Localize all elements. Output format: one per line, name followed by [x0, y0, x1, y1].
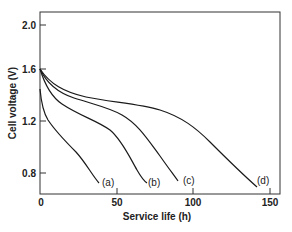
curve-label-d: (d)	[257, 175, 269, 186]
curve-c	[40, 69, 178, 181]
discharge-chart: 2.0 1.6 1.2 0.8 Cell voltage (V) 0 50 10…	[0, 0, 292, 232]
y-axis-title: Cell voltage (V)	[7, 67, 18, 139]
curve-label-a: (a)	[102, 177, 114, 188]
plot-area	[40, 12, 280, 194]
x-tick-label: 150	[262, 197, 279, 208]
y-tick-label: 2.0	[22, 20, 36, 31]
x-tick-label: 0	[38, 197, 44, 208]
curve-b	[40, 69, 147, 183]
x-axis-title: Service life (h)	[123, 211, 191, 222]
x-tick-label: 100	[185, 197, 202, 208]
x-axis: 0 50 100 150 Service life (h)	[38, 188, 279, 222]
x-tick-label: 50	[111, 197, 123, 208]
curve-d	[40, 69, 257, 187]
y-tick-label: 0.8	[22, 168, 36, 179]
y-tick-label: 1.6	[22, 64, 36, 75]
curve-label-c: (c)	[183, 175, 195, 186]
y-tick-label: 1.2	[22, 116, 36, 127]
curve-label-b: (b)	[148, 177, 160, 188]
